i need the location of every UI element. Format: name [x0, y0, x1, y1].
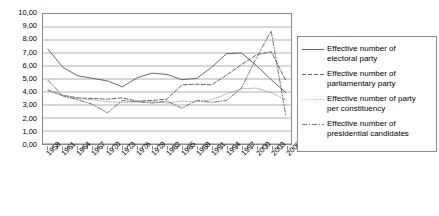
y-tick-label: 1,00 — [22, 128, 37, 136]
y-tick-label: 4,00 — [22, 88, 37, 96]
series-line-4 — [48, 31, 286, 117]
legend-label-line1: Effective number of — [327, 69, 396, 79]
y-tick-label: 9,00 — [22, 22, 37, 30]
y-tick-label: 8,00 — [22, 36, 37, 44]
legend-item: Effective number ofparliamentary party — [302, 69, 432, 88]
legend-label-line1: Effective number of party — [327, 94, 416, 104]
plot-area — [42, 13, 292, 145]
legend-label-line1: Effective number of — [327, 44, 396, 54]
legend-line-swatch — [302, 94, 324, 105]
legend-label: Effective number ofpresidential candidat… — [327, 119, 409, 138]
chart-legend: Effective number ofelectoral partyEffect… — [297, 36, 437, 152]
legend-label-line2: presidential candidates — [327, 129, 409, 139]
series-lines — [43, 14, 291, 144]
legend-label-line2: electoral party — [327, 54, 396, 64]
y-tick-label: 7,00 — [22, 49, 37, 57]
y-tick-label: 6,00 — [22, 62, 37, 70]
legend-item: Effective number ofpresidential candidat… — [302, 119, 432, 138]
y-tick-label: 5,00 — [22, 75, 37, 83]
legend-label: Effective number of partyper constituenc… — [327, 94, 416, 113]
y-axis: 10,009,008,007,006,005,004,003,002,001,0… — [0, 13, 40, 145]
y-tick-label: 2,00 — [22, 115, 37, 123]
y-tick-label: 3,00 — [22, 102, 37, 110]
legend-line-swatch — [302, 44, 324, 55]
y-tick-label: 0,00 — [22, 141, 37, 149]
x-axis: 1958196119641967197019731976197919821985… — [42, 146, 292, 216]
legend-label-line2: parliamentary party — [327, 79, 396, 89]
legend-line-swatch — [302, 69, 324, 80]
chart-figure: 10,009,008,007,006,005,004,003,002,001,0… — [0, 0, 439, 216]
legend-line-swatch — [302, 119, 324, 130]
legend-label-line1: Effective number of — [327, 119, 409, 129]
legend-label: Effective number ofelectoral party — [327, 44, 396, 63]
legend-label-line2: per constituency — [327, 104, 416, 114]
legend-label: Effective number ofparliamentary party — [327, 69, 396, 88]
legend-item: Effective number of partyper constituenc… — [302, 94, 432, 113]
legend-item: Effective number ofelectoral party — [302, 44, 432, 63]
y-tick-label: 10,00 — [18, 9, 37, 17]
